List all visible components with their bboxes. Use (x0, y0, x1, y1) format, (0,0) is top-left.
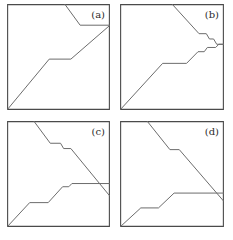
panel-d-frame (121, 122, 224, 227)
panel-a: (a) (7, 4, 110, 110)
panel-b-frame (121, 5, 224, 110)
panel-a-label: (a) (91, 10, 105, 20)
panel-b-label: (b) (205, 10, 219, 20)
panel-c-label: (c) (92, 127, 105, 137)
panel-b: (b) (120, 4, 224, 110)
panel-d-label: (d) (205, 127, 219, 137)
panel-c: (c) (7, 121, 110, 227)
panel-d: (d) (120, 121, 224, 227)
panel-c-frame (8, 122, 110, 227)
panel-a-frame (8, 5, 110, 110)
figure-canvas: (a) (b) (c) (d) (0, 0, 233, 240)
